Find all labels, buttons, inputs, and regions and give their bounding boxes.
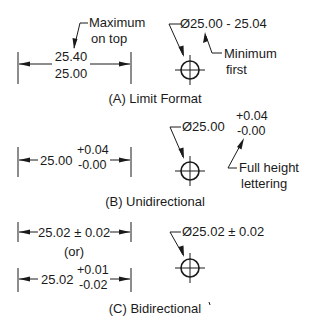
upper-limit-value: 25.40 xyxy=(55,49,88,64)
arrowhead-icon xyxy=(237,138,244,150)
stray-mark xyxy=(209,302,210,305)
section-b-unidirectional: 25.00 +0.04 -0.00 Ø25.00 +0.04 -0.00 Ful… xyxy=(18,109,299,209)
minimum-first-callout: Minimum first xyxy=(203,32,277,77)
leader-line xyxy=(74,23,88,48)
hole-symbol-icon xyxy=(175,55,205,85)
nominal-value: 25.02 xyxy=(41,272,74,287)
arrowhead-icon xyxy=(19,62,30,67)
or-label: (or) xyxy=(64,244,84,259)
tolerance-formats-diagram: 25.40 25.00 Maximum on top Ø25.00 - 25.0… xyxy=(0,0,311,332)
bidirectional-linear-dimension-stacked: 25.02 +0.01 -0.02 xyxy=(18,263,131,292)
full-height-lettering-callout: Full height lettering xyxy=(228,138,299,191)
nominal-value: 25.00 xyxy=(40,153,73,168)
note-first: first xyxy=(226,62,247,77)
hole-symbol-icon xyxy=(175,156,205,186)
note-full-height: Full height xyxy=(239,160,299,175)
caption-c: (C) Bidirectional xyxy=(109,301,202,316)
arrowhead-icon xyxy=(203,32,208,43)
maximum-on-top-callout: Maximum on top xyxy=(73,15,146,49)
caption-a: (A) Limit Format xyxy=(108,91,202,106)
plus-tolerance: +0.01 xyxy=(77,263,109,277)
hole-symbol-icon xyxy=(175,253,205,283)
section-a-limit-format: 25.40 25.00 Maximum on top Ø25.00 - 25.0… xyxy=(18,15,277,106)
diameter-nominal: Ø25.00 xyxy=(182,119,225,134)
arrowhead-icon xyxy=(73,38,78,49)
arrowhead-icon xyxy=(179,46,185,58)
arrowhead-icon xyxy=(19,158,30,163)
plusminus-value: 25.02 ± 0.02 xyxy=(38,225,110,240)
caption-b: (B) Unidirectional xyxy=(105,194,205,209)
arrowhead-icon xyxy=(179,148,185,160)
arrowhead-icon xyxy=(19,230,30,235)
arrowhead-icon xyxy=(119,277,130,282)
minus-tolerance: -0.00 xyxy=(78,158,107,172)
diameter-minus-tolerance: -0.00 xyxy=(237,124,266,138)
note-lettering: lettering xyxy=(241,176,287,191)
leader-line xyxy=(206,36,222,53)
diameter-plus-tolerance: +0.04 xyxy=(236,109,268,123)
bidirectional-diameter-dimension: Ø25.02 ± 0.02 xyxy=(170,224,264,283)
limit-linear-dimension: 25.40 25.00 xyxy=(18,49,131,84)
note-on-top: on top xyxy=(91,31,127,46)
note-minimum: Minimum xyxy=(224,46,277,61)
arrowhead-icon xyxy=(119,62,130,67)
minus-tolerance: -0.02 xyxy=(79,278,108,292)
diameter-plusminus-text: Ø25.02 ± 0.02 xyxy=(182,224,264,239)
plus-tolerance: +0.04 xyxy=(77,143,109,157)
bidirectional-linear-dimension-plusminus: 25.02 ± 0.02 xyxy=(18,222,131,242)
section-c-bidirectional: 25.02 ± 0.02 (or) 25.02 +0.01 -0.02 Ø25.… xyxy=(18,222,264,316)
arrowhead-icon xyxy=(19,277,30,282)
arrowhead-icon xyxy=(119,158,130,163)
arrowhead-icon xyxy=(179,246,185,258)
lower-limit-value: 25.00 xyxy=(55,66,88,81)
unidirectional-linear-dimension: 25.00 +0.04 -0.00 xyxy=(18,143,131,177)
diameter-limit-text: Ø25.00 - 25.04 xyxy=(180,16,267,31)
note-maximum: Maximum xyxy=(89,15,145,30)
arrowhead-icon xyxy=(119,230,130,235)
